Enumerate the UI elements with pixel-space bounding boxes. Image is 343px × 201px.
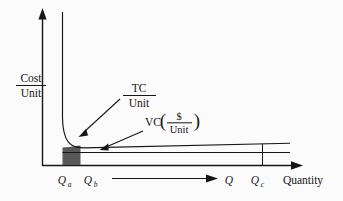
vc-paren-close: ) [194,110,200,132]
range-arrow-label: Q [225,174,234,186]
tick-label-qa-sub: a [68,180,72,189]
vc-paren-open: ( [160,110,166,132]
vc-label-denominator: Unit [170,124,189,135]
tick-label-qc-base: Q [251,174,260,186]
y-axis-label-numerator: Cost [20,72,42,84]
vc-label-numerator: $ [176,111,181,122]
y-axis-label-denominator: Unit [21,87,42,99]
shaded-fixed-cost-region [63,146,81,165]
tc-label-numerator: TC [132,82,147,94]
x-axis-title: Quantity [283,174,323,187]
tick-label-qb-base: Q [84,174,93,186]
tick-label-qa-base: Q [58,174,67,186]
tick-label-qb-sub: b [94,180,98,189]
tc-label-denominator: Unit [129,97,150,109]
cost-curve-figure: Cost Unit TC Unit VC ( $ Unit ) Q a Q [0,0,343,201]
figure-background [0,0,343,201]
